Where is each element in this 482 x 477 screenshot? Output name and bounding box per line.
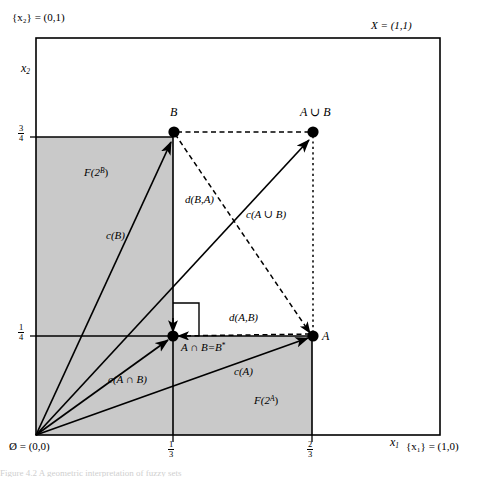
tick-label-x-two-thirds: 23 xyxy=(307,440,313,458)
point-label-A: A xyxy=(322,330,329,342)
region-label-F-2-A: F(2A) xyxy=(254,395,278,406)
diagram-svg xyxy=(0,0,482,477)
point-label-A-inter-B-text: A ∩ B=B xyxy=(181,341,222,353)
region-label-F-2-A-close: ) xyxy=(274,394,278,406)
figure-canvas: {x₂} = (0,1) X = (1,1) Ø = (0,0) {x₁} = … xyxy=(0,0,482,477)
region-label-F-2-B-base: F(2 xyxy=(84,166,100,178)
point-A-union-B-dot xyxy=(307,126,318,137)
point-label-A-inter-B: A ∩ B=B* xyxy=(181,342,226,353)
distance-label-d-B-A: d(B,A) xyxy=(185,194,214,205)
region-label-F-2-B-close: ) xyxy=(104,166,108,178)
vector-label-c-A-inter-B: c(A ∩ B) xyxy=(108,374,147,385)
axis-label-y: x2 xyxy=(21,62,30,76)
corner-label-bottom-right: {x₁} = (1,0) xyxy=(406,441,459,452)
axis-label-x: x1 xyxy=(390,436,399,450)
region-label-F-2-A-base: F(2 xyxy=(254,394,270,406)
corner-label-bottom-left: Ø = (0,0) xyxy=(9,441,50,452)
tick-label-y-one-quarter: 14 xyxy=(18,323,24,341)
tick-label-y-three-quarters: 34 xyxy=(18,124,24,142)
vector-label-c-B: c(B) xyxy=(106,230,125,241)
point-A-inter-B-dot xyxy=(167,330,178,341)
corner-label-top-right: X = (1,1) xyxy=(371,20,412,31)
figure-caption: Figure 4.2 A geometric interpretation of… xyxy=(0,468,482,477)
vector-label-c-A: c(A) xyxy=(234,366,253,377)
point-A-dot xyxy=(307,330,318,341)
point-label-A-union-B: A ∪ B xyxy=(300,106,331,118)
distance-label-d-A-B: d(A,B) xyxy=(229,312,258,323)
point-label-B: B xyxy=(170,106,177,118)
point-label-A-inter-B-star: * xyxy=(222,341,226,350)
right-angle-mark xyxy=(173,303,199,336)
tick-label-x-one-third: 13 xyxy=(168,440,174,458)
vector-label-c-A-union-B: c(A ∪ B) xyxy=(246,209,286,220)
point-B-dot xyxy=(168,126,179,137)
corner-label-top-left: {x₂} = (0,1) xyxy=(12,12,65,23)
region-label-F-2-B: F(2B) xyxy=(84,167,108,178)
